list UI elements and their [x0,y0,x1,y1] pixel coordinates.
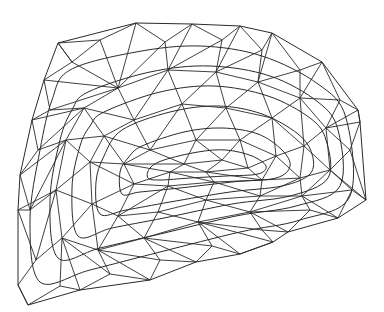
mesh-edge [170,164,184,172]
mesh-edge [300,62,322,70]
mesh-edge [62,204,92,238]
mesh-edge [90,162,92,204]
mesh-edge [118,88,134,120]
mesh-edge [216,72,258,82]
mesh-edge [150,150,184,164]
mesh-edge [182,72,216,104]
mesh-edge [100,40,118,88]
mesh-edge [165,42,168,70]
mesh-edge [28,286,60,305]
mesh-edge [226,82,258,108]
mesh-diagram [0,0,384,312]
mesh-edge [240,118,272,140]
mesh-edge [118,216,144,238]
mesh-edge [18,260,36,285]
mesh-edge [258,82,272,118]
mesh-edge [56,190,92,204]
mesh-edge [168,70,216,72]
mesh-edge [134,104,182,120]
mesh-edge [144,238,212,246]
contour-ring-1 [30,46,354,285]
mesh-edge [276,156,300,178]
mesh-edge [32,120,38,150]
mesh-svg [0,0,384,312]
mesh-edge [302,190,352,196]
mesh-edge [158,212,198,222]
mesh-edge [124,150,150,164]
mesh-edge [214,182,260,196]
mesh-edge [258,82,300,98]
mesh-edge [300,98,340,100]
mesh-edge [168,186,206,200]
mesh-edge [150,104,182,150]
mesh-edge [276,146,304,156]
mesh-edge [50,88,118,110]
mesh-edge [300,146,304,178]
mesh-edge [58,43,72,62]
mesh-edge [168,172,170,186]
mesh-edge [136,23,165,42]
mesh-edge [134,70,168,120]
mesh-edge [104,136,150,150]
mesh-edge [66,140,90,162]
mesh-edge [272,33,300,70]
mesh-edge [260,180,262,196]
mesh-edge [62,238,80,290]
mesh-edge [300,62,322,98]
mesh-edge [168,70,182,104]
mesh-edge [90,136,104,162]
mesh-edge [304,146,330,170]
mesh-edge [198,212,250,222]
mesh-edge [168,182,214,186]
mesh-edge [92,204,118,216]
mesh-edge [44,80,50,110]
mesh-edge [92,184,134,204]
mesh-edge [104,120,134,136]
mesh-edge [90,162,124,164]
mesh-edge [62,238,98,250]
mesh-edge [184,160,222,164]
contour-lines [30,46,354,285]
mesh-edge [134,184,168,186]
mesh-edge [330,170,352,190]
mesh-edge [100,23,136,40]
mesh-edge [184,164,206,172]
mesh-edge [150,140,196,150]
mesh-edge [216,72,226,108]
mesh-edge [222,160,248,168]
mesh-edge [134,172,170,184]
mesh-edge [216,26,240,72]
mesh-edge [250,210,310,212]
mesh-edge [206,200,250,212]
mesh-edge [30,190,56,210]
mesh-edge [272,118,304,146]
mesh-edge [262,156,276,180]
contour-ring-2 [50,66,344,261]
mesh-edge [160,260,196,262]
mesh-edge [18,210,36,260]
mesh-edge [36,190,56,260]
mesh-edge [206,168,248,172]
mesh-edge [60,286,80,290]
mesh-edge [262,33,272,50]
contour-ring-6 [147,150,266,180]
mesh-edge [124,164,170,172]
mesh-edge [56,190,62,238]
mesh-edge [260,178,300,196]
mesh-edge [72,40,100,62]
mesh-edge [258,70,300,82]
mesh-edge [272,118,276,156]
mesh-edge [66,136,104,140]
mesh-edge [165,24,192,42]
mesh-edge [196,108,226,140]
mesh-edge [222,26,240,40]
mesh-edge [184,140,196,164]
mesh-edge [62,238,110,274]
mesh-edge [330,150,350,170]
mesh-edge [92,204,98,250]
mesh-edge [226,108,240,140]
mesh-edge [206,196,260,200]
mesh-edge [300,98,326,128]
mesh-edge [36,238,62,260]
mesh-edge [192,24,222,40]
